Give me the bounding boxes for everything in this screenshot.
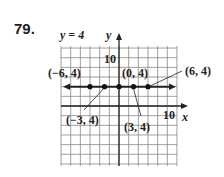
- point-label-6: (6, 4): [185, 64, 211, 78]
- y-axis-label: y: [104, 28, 112, 42]
- point-label-neg3: (−3, 4): [66, 113, 99, 127]
- data-point: [116, 84, 121, 89]
- x-axis-arrow-icon: [181, 103, 188, 109]
- point-label-0: (0, 4): [122, 66, 148, 80]
- y-tick-label: 10: [104, 52, 116, 66]
- graph: y = 4 y x 10 10 (−6, 4) (−3, 4) (0, 4) (…: [0, 0, 224, 177]
- equation-label: y = 4: [58, 28, 84, 42]
- point-label-neg6: (−6, 4): [48, 66, 81, 80]
- x-axis-label: x: [181, 110, 188, 124]
- leader-3: [133, 87, 141, 116]
- line-right-arrow-icon: [169, 84, 176, 91]
- line-left-arrow-icon: [63, 84, 70, 91]
- data-point: [102, 84, 107, 89]
- point-label-3: (3, 4): [124, 120, 150, 134]
- data-point: [87, 84, 92, 89]
- y-axis-arrow-icon: [116, 33, 122, 40]
- x-tick-label: 10: [163, 108, 175, 122]
